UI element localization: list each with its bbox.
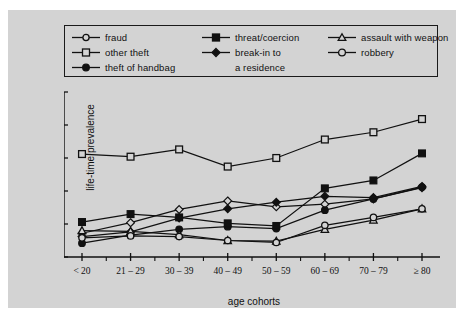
legend-label: break-in to — [235, 45, 281, 60]
legend-item-other-theft: other theft — [71, 45, 199, 60]
plot-area: 0510152025< 2021 – 2930 – 3940 – 4950 – … — [64, 86, 444, 282]
svg-text:60 – 69: 60 – 69 — [311, 266, 340, 276]
open-square-marker-icon — [71, 45, 101, 60]
svg-text:30 – 39: 30 – 39 — [165, 266, 194, 276]
chart-plate: fraud other theft theft of handbag — [8, 10, 456, 308]
legend-column-1: fraud other theft theft of handbag — [71, 30, 199, 75]
x-axis-label: age cohorts — [64, 296, 444, 307]
legend-label: robbery — [361, 45, 394, 60]
filled-diamond-marker-icon — [201, 45, 231, 60]
legend-item-robbery: robbery — [327, 45, 437, 60]
filled-circle-marker-icon — [71, 60, 101, 75]
legend-label: a residence — [235, 60, 285, 75]
svg-text:≥ 80: ≥ 80 — [413, 266, 430, 276]
svg-text:< 20: < 20 — [73, 266, 90, 276]
legend-label: theft of handbag — [105, 60, 175, 75]
legend-label: threat/coercion — [235, 30, 299, 45]
y-axis-label: life-time prevalence — [85, 88, 96, 208]
figure-canvas: fraud other theft theft of handbag — [0, 0, 464, 318]
legend-item-fraud: fraud — [71, 30, 199, 45]
legend-item-assault-with-weapon: assault with weapon — [327, 30, 437, 45]
legend-column-3: assault with weapon robbery — [327, 30, 437, 60]
legend-label: other theft — [105, 45, 149, 60]
legend-column-2: threat/coercion break-in to a residence — [201, 30, 325, 75]
legend-item-break-in-continuation: a residence — [201, 60, 325, 75]
filled-square-marker-icon — [201, 30, 231, 45]
open-triangle-marker-icon — [327, 30, 357, 45]
open-circle-marker-icon — [71, 30, 101, 45]
series-other-theft — [79, 116, 426, 170]
legend-label: assault with weapon — [361, 30, 448, 45]
legend-item-theft-of-handbag: theft of handbag — [71, 60, 199, 75]
line-chart: 0510152025< 2021 – 2930 – 3940 – 4950 – … — [64, 86, 444, 291]
legend-item-threat-coercion: threat/coercion — [201, 30, 325, 45]
svg-text:40 – 49: 40 – 49 — [213, 266, 242, 276]
svg-text:70 – 79: 70 – 79 — [359, 266, 388, 276]
open-circle-marker-icon — [327, 45, 357, 60]
legend-item-break-in: break-in to — [201, 45, 325, 60]
svg-text:21 – 29: 21 – 29 — [116, 266, 145, 276]
chart-legend: fraud other theft theft of handbag — [64, 25, 438, 77]
svg-text:50 – 59: 50 – 59 — [262, 266, 291, 276]
legend-label: fraud — [105, 30, 127, 45]
